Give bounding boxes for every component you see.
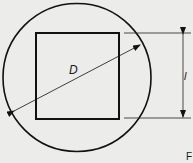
diagram-canvas: D l F bbox=[0, 0, 193, 163]
geometry-drawing bbox=[0, 0, 193, 163]
diameter-dimension-line bbox=[14, 45, 140, 111]
corner-mark-label: F bbox=[186, 152, 192, 162]
diameter-label: D bbox=[69, 64, 78, 76]
outer-circle bbox=[3, 4, 151, 152]
side-length-label: l bbox=[184, 71, 186, 82]
